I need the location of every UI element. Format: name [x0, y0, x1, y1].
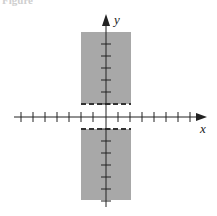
- y-axis-label: y: [112, 12, 120, 27]
- x-axis-arrow-icon: [196, 113, 207, 121]
- inequality-graph: y x: [0, 0, 217, 216]
- y-axis-arrow-icon: [102, 14, 110, 26]
- x-axis-label: x: [199, 121, 206, 136]
